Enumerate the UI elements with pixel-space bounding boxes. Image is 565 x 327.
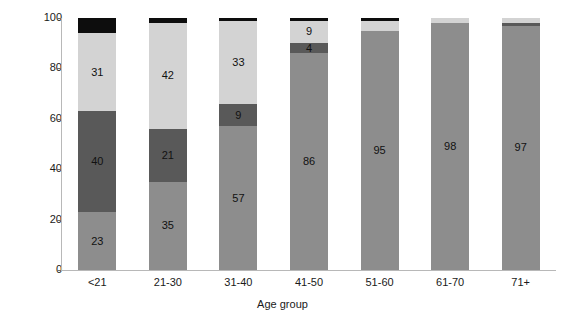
bar-segment[interactable] xyxy=(502,23,540,26)
y-tick-label: 0 xyxy=(16,263,62,275)
x-axis-line xyxy=(61,270,556,271)
y-tick-label: 40 xyxy=(16,162,62,174)
bar-segment-label: 97 xyxy=(515,142,527,153)
x-tick-label: 71+ xyxy=(476,276,565,288)
stacked-bar[interactable]: 97 xyxy=(502,18,540,270)
plot-area: 234031352142579338649959897 xyxy=(62,18,556,270)
bar-group: 97 xyxy=(62,18,556,270)
y-tick-label: 20 xyxy=(16,213,62,225)
y-tick-label: 60 xyxy=(16,112,62,124)
y-tick-label: 100 xyxy=(16,11,62,23)
x-axis-title: Age group xyxy=(0,298,565,310)
bar-segment[interactable] xyxy=(502,18,540,23)
stacked-bar-chart: Percentage 020406080100 2340313521425793… xyxy=(0,0,565,327)
bar-segment[interactable]: 97 xyxy=(502,26,540,270)
y-tick-label: 80 xyxy=(16,61,62,73)
